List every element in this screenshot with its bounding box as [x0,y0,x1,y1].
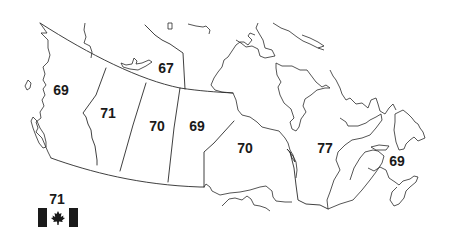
newfoundland-north [385,104,396,114]
arctic-coast-1 [188,24,210,34]
canada-map [0,0,466,238]
region-label-alberta: 71 [100,105,116,121]
alberta-saskatchewan-border [120,83,146,171]
region-label-british-columbia: 69 [53,82,69,98]
region-label-northwest-territories: 67 [158,60,174,76]
great-slave-lake [121,58,152,70]
st-lawrence-shore [327,150,384,209]
arctic-coast-3 [273,23,324,50]
arctic-island-1 [168,23,172,29]
region-label-quebec: 77 [317,140,333,156]
arctic-coast-4 [302,35,324,48]
haida-gwaii [25,80,31,90]
region-label-atlantic: 69 [389,153,405,169]
national-value: 71 [49,191,65,207]
region-label-ontario: 70 [237,140,253,156]
lake-superior [222,196,270,211]
saskatchewan-manitoba-border [168,88,180,182]
anticosti-island [371,145,389,150]
hudson-bay-west-shore [211,33,255,93]
vancouver-island [31,117,46,148]
hudson-bay-east-shore [276,63,330,131]
region-label-manitoba: 69 [189,118,205,134]
newfoundland [394,110,425,150]
nwt-nunavut-border [145,25,185,89]
great-lakes [204,184,292,202]
arctic-coast-2 [236,23,275,58]
manitoba-ontario-border [204,121,234,187]
quebec-labrador-border [336,114,382,160]
canada-flag-icon [38,208,78,227]
southern-border [51,158,204,187]
bc-coastline [36,23,51,158]
region-label-saskatchewan: 70 [149,118,165,134]
labrador-coast [330,70,385,114]
